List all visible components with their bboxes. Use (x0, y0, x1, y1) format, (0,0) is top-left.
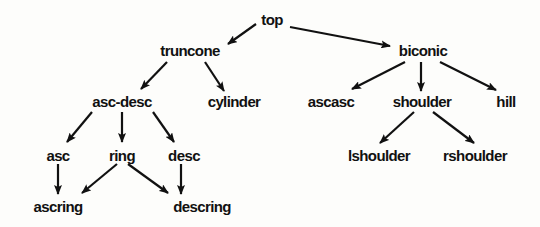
edge-arrow-shoulder-to-rshoulder (433, 112, 474, 143)
node-asc: asc (46, 148, 69, 163)
edges-layer (0, 0, 540, 227)
tree-diagram: top truncone biconic asc-desc cylinder a… (0, 0, 540, 227)
edge-arrow-asc-desc-to-desc (153, 112, 174, 142)
node-truncone: truncone (160, 43, 219, 58)
node-biconic: biconic (399, 43, 447, 58)
edge-arrow-truncone-to-cylinder (205, 62, 224, 91)
edge-arrow-truncone-to-asc-desc (141, 62, 167, 89)
node-shoulder: shoulder (393, 94, 452, 109)
edge-arrow-ring-to-descring (128, 164, 168, 193)
node-rshoulder: rshoulder (443, 148, 507, 163)
node-desc: desc (168, 148, 200, 163)
node-ring: ring (109, 148, 135, 163)
node-cylinder: cylinder (208, 94, 261, 109)
node-top: top (261, 12, 283, 27)
node-asc-desc: asc-desc (92, 94, 151, 109)
edge-arrow-asc-desc-to-asc (67, 112, 92, 142)
node-hill: hill (496, 94, 515, 109)
edge-arrow-biconic-to-hill (440, 62, 496, 90)
edge-arrow-top-to-truncone (228, 24, 256, 44)
node-ascring: ascring (33, 199, 82, 214)
node-descring: descring (173, 199, 231, 214)
edge-arrow-biconic-to-ascasc (352, 62, 405, 89)
node-lshoulder: lshoulder (348, 148, 410, 163)
edge-arrow-ring-to-ascring (82, 164, 117, 193)
node-ascasc: ascasc (308, 94, 354, 109)
edge-arrow-shoulder-to-lshoulder (380, 112, 414, 143)
edge-arrow-top-to-biconic (290, 27, 390, 46)
